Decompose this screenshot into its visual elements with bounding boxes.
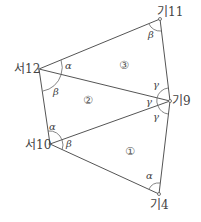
angle-gamma-9-bot: γ xyxy=(153,111,159,122)
triangle-label-2: ② xyxy=(83,94,93,107)
angle-gamma-9-mid: γ xyxy=(146,96,152,107)
angle-alpha-4: α xyxy=(146,170,153,181)
triangulation-diagram: 기11 서12 기9 서10 기4 β α β γ γ γ α β α ③ ② … xyxy=(0,0,201,222)
arc-alpha-12 xyxy=(61,60,62,75)
edge-12-10 xyxy=(39,69,50,144)
arc-beta-10 xyxy=(62,140,63,150)
triangle-label-3: ③ xyxy=(119,59,129,72)
angle-alpha-12: α xyxy=(65,60,72,71)
label-point-9: 기9 xyxy=(172,94,191,108)
edge-12-11 xyxy=(39,19,160,69)
angle-beta-10: β xyxy=(65,138,72,149)
arc-alpha-4 xyxy=(149,183,160,189)
label-point-10: 서10 xyxy=(25,138,51,152)
label-point-11: 기11 xyxy=(157,5,183,19)
edge-9-4 xyxy=(159,101,170,194)
edge-10-4 xyxy=(50,144,159,194)
angle-beta-12: β xyxy=(52,86,59,97)
label-point-4: 기4 xyxy=(150,198,169,212)
angle-gamma-9-top: γ xyxy=(153,79,159,90)
point-4 xyxy=(158,193,161,196)
triangle-label-1: ① xyxy=(125,145,135,158)
angle-beta-11: β xyxy=(147,29,154,40)
label-point-12: 서12 xyxy=(14,62,40,76)
angle-alpha-10: α xyxy=(49,121,56,132)
